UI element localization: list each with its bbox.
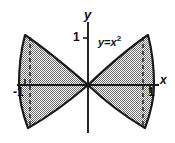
shaded-region-right — [88, 35, 154, 128]
x-tick-label-negative-one: -1 — [13, 86, 24, 98]
curve-equation-base: y=x — [98, 36, 117, 48]
y-tick-label-one: 1 — [73, 31, 80, 43]
curve-equation-label: y=x2 — [98, 35, 121, 48]
x-tick-label-positive-one: 1 — [148, 86, 155, 98]
y-axis-label: y — [84, 8, 91, 21]
x-axis-label: x — [160, 74, 167, 86]
math-figure: y x 1 -1 1 y=x2 — [0, 0, 175, 143]
curve-equation-exponent: 2 — [117, 34, 121, 43]
